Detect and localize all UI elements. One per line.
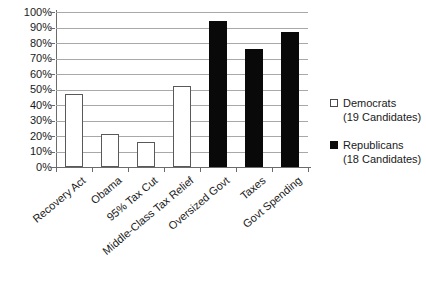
y-axis-tick-label: 60% — [30, 69, 52, 80]
bar-recovery-act — [65, 94, 83, 167]
x-axis-tick — [200, 167, 201, 172]
y-axis-tick-label: 80% — [30, 38, 52, 49]
legend-label-democrats: Democrats — [343, 96, 396, 110]
legend-sublabel-republicans: (18 Candidates) — [343, 152, 426, 166]
y-axis-tick-label: 20% — [30, 131, 52, 142]
y-axis-tick — [50, 59, 55, 60]
x-axis-tick — [308, 167, 309, 172]
gridline — [56, 59, 308, 60]
y-axis-tick-label: 10% — [30, 146, 52, 157]
gridline — [56, 43, 308, 44]
y-axis-tick — [50, 43, 55, 44]
y-axis-tick-label: 50% — [30, 84, 52, 95]
x-axis-tick — [92, 167, 93, 172]
x-axis-tick — [56, 167, 57, 172]
y-axis-tick — [50, 121, 55, 122]
legend-label-republicans: Republicans — [343, 138, 404, 152]
bar-chart: 100% 90% 80% 70% 60% 50% 40% 30% 20% 10%… — [0, 0, 426, 283]
y-axis-tick — [50, 12, 55, 13]
legend-swatch-republicans-icon — [330, 141, 338, 149]
y-axis-tick — [50, 74, 55, 75]
y-axis-tick-label: 40% — [30, 100, 52, 111]
legend-sublabel-democrats: (19 Candidates) — [343, 110, 426, 124]
bar-middle-class-tax-relief — [173, 86, 191, 167]
y-axis-tick — [50, 105, 55, 106]
bar-obama — [101, 134, 119, 167]
bar-oversized-govt — [209, 21, 227, 167]
y-axis-tick — [50, 90, 55, 91]
legend-entry-republicans: Republicans (18 Candidates) — [330, 138, 426, 166]
gridline — [56, 12, 308, 13]
plot-area — [56, 12, 308, 167]
gridline — [56, 74, 308, 75]
y-axis-tick-label: 30% — [30, 115, 52, 126]
bar-taxes — [245, 49, 263, 167]
y-axis-tick-label: 90% — [30, 22, 52, 33]
y-axis-tick-label: 100% — [24, 7, 52, 18]
x-axis-tick — [164, 167, 165, 172]
bar-95-tax-cut — [137, 142, 155, 167]
legend: Democrats (19 Candidates) Republicans (1… — [330, 96, 426, 180]
y-axis-tick — [50, 152, 55, 153]
legend-entry-democrats: Democrats (19 Candidates) — [330, 96, 426, 124]
y-axis-tick — [50, 28, 55, 29]
y-axis-tick-label: 70% — [30, 53, 52, 64]
y-axis-tick — [50, 167, 55, 168]
legend-swatch-democrats-icon — [330, 99, 338, 107]
bar-govt-spending — [281, 32, 299, 167]
y-axis-tick — [50, 136, 55, 137]
gridline — [56, 28, 308, 29]
x-axis-tick — [128, 167, 129, 172]
x-axis-tick — [236, 167, 237, 172]
x-axis-tick — [272, 167, 273, 172]
